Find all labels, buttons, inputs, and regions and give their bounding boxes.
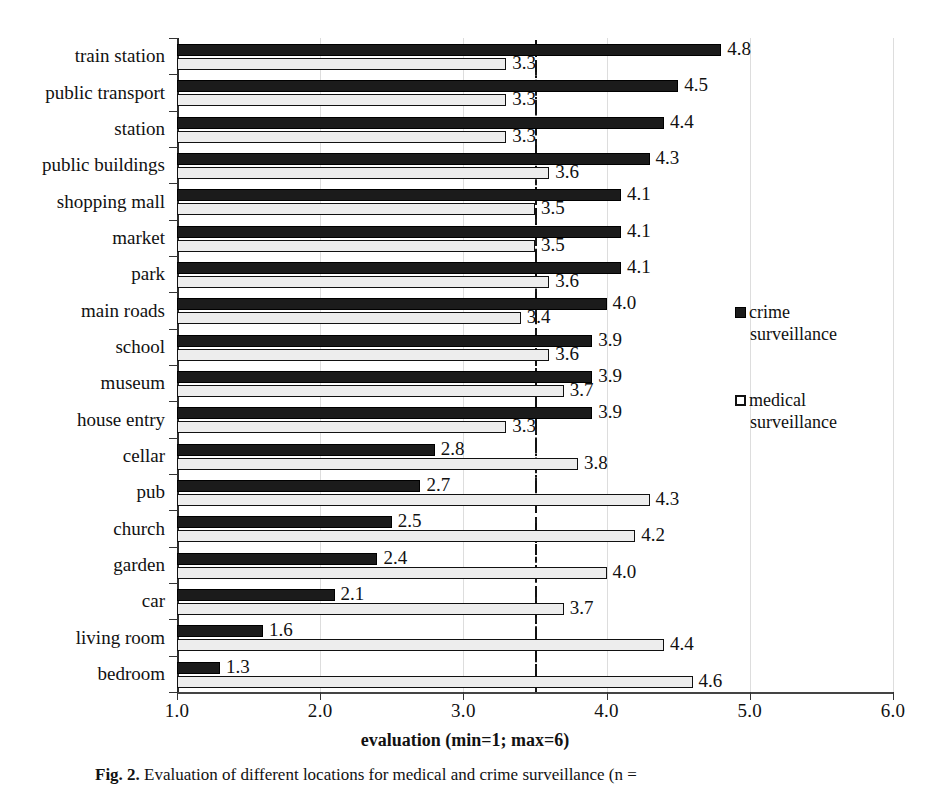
figure-bar-chart: 1.02.03.04.05.06.0 train station4.83.3pu… [0, 0, 930, 790]
figure-caption: Fig. 2. Evaluation of different location… [95, 764, 855, 788]
caption-figure-number: Fig. 2. [95, 765, 140, 784]
bar-value-crime: 4.4 [670, 112, 694, 131]
bar-medical-surveillance [177, 58, 506, 70]
bar-crime-surveillance [177, 444, 435, 456]
bar-value-medical: 3.3 [512, 53, 536, 72]
bar-value-crime: 1.6 [269, 620, 293, 639]
bar-medical-surveillance [177, 676, 693, 688]
y-axis-tick [169, 692, 178, 693]
category-label: museum [0, 373, 165, 392]
y-axis-tick [169, 74, 178, 75]
bar-crime-surveillance [177, 480, 420, 492]
bar-medical-surveillance [177, 385, 564, 397]
category-label: public transport [0, 83, 165, 102]
bar-value-medical: 4.4 [670, 634, 694, 653]
bar-value-crime: 3.9 [598, 330, 622, 349]
caption-text: Evaluation of different locations for me… [144, 765, 637, 784]
y-axis-tick [169, 547, 178, 548]
category-label: station [0, 119, 165, 138]
bar-value-crime: 3.9 [598, 366, 622, 385]
x-axis-title: evaluation (min=1; max=6) [0, 730, 930, 751]
bar-value-medical: 4.2 [641, 525, 665, 544]
filled-square-icon [735, 307, 746, 318]
legend-label-crime-line2: surveillance [750, 324, 915, 346]
category-label: pub [0, 482, 165, 501]
bar-medical-surveillance [177, 131, 506, 143]
legend-label-medical-line1: medical [749, 390, 806, 410]
category-label: public buildings [0, 155, 165, 174]
bar-value-crime: 1.3 [226, 657, 250, 676]
y-axis-tick [169, 329, 178, 330]
bar-crime-surveillance [177, 516, 392, 528]
bar-value-medical: 4.3 [656, 489, 680, 508]
category-label: garden [0, 555, 165, 574]
bar-value-medical: 3.5 [541, 198, 565, 217]
x-axis-tick-label: 5.0 [720, 700, 780, 722]
y-axis-tick [169, 256, 178, 257]
open-square-icon [735, 395, 746, 406]
bar-value-medical: 4.0 [613, 562, 637, 581]
bar-value-crime: 2.4 [383, 548, 407, 567]
bar-value-medical: 4.6 [699, 671, 723, 690]
category-label: bedroom [0, 664, 165, 683]
bar-value-medical: 3.8 [584, 453, 608, 472]
category-label: park [0, 264, 165, 283]
bar-value-crime: 4.5 [684, 75, 708, 94]
x-axis-line [177, 692, 893, 694]
bar-medical-surveillance [177, 94, 506, 106]
category-label: church [0, 519, 165, 538]
y-axis-tick [169, 656, 178, 657]
bar-value-medical: 3.6 [555, 162, 579, 181]
x-axis-tick-label: 3.0 [433, 700, 493, 722]
category-label: living room [0, 628, 165, 647]
x-axis-tick [750, 692, 751, 700]
y-axis-tick [169, 438, 178, 439]
category-label: house entry [0, 410, 165, 429]
y-axis-tick [169, 111, 178, 112]
bar-crime-surveillance [177, 589, 335, 601]
bar-medical-surveillance [177, 240, 535, 252]
y-axis-tick [169, 147, 178, 148]
bar-value-crime: 4.1 [627, 184, 651, 203]
bar-crime-surveillance [177, 335, 592, 347]
category-label: main roads [0, 301, 165, 320]
bar-medical-surveillance [177, 312, 521, 324]
bar-crime-surveillance [177, 262, 621, 274]
bar-crime-surveillance [177, 625, 263, 637]
category-label: car [0, 591, 165, 610]
bar-value-medical: 3.7 [570, 598, 594, 617]
legend-label-medical-line2: surveillance [750, 412, 915, 434]
category-label: train station [0, 46, 165, 65]
bar-value-crime: 2.1 [341, 584, 365, 603]
y-axis-tick [169, 220, 178, 221]
y-axis-tick [169, 474, 178, 475]
y-axis-tick [169, 619, 178, 620]
x-axis-tick-label: 4.0 [577, 700, 637, 722]
bar-value-crime: 4.3 [656, 148, 680, 167]
x-axis-tick-label: 2.0 [290, 700, 350, 722]
bar-value-crime: 2.7 [426, 475, 450, 494]
legend-label-crime-line1: crime [749, 302, 790, 322]
bar-value-crime: 4.0 [613, 293, 637, 312]
bar-crime-surveillance [177, 553, 377, 565]
category-label: cellar [0, 446, 165, 465]
bar-crime-surveillance [177, 371, 592, 383]
y-axis-tick [169, 401, 178, 402]
bar-medical-surveillance [177, 639, 664, 651]
category-label: shopping mall [0, 192, 165, 211]
bar-value-medical: 3.6 [555, 271, 579, 290]
y-axis-tick [169, 183, 178, 184]
category-label: market [0, 228, 165, 247]
bar-value-medical: 3.3 [512, 416, 536, 435]
x-axis-tick [320, 692, 321, 700]
bar-medical-surveillance [177, 349, 549, 361]
y-axis-tick [169, 583, 178, 584]
bar-value-medical: 3.6 [555, 344, 579, 363]
bar-medical-surveillance [177, 203, 535, 215]
bar-medical-surveillance [177, 276, 549, 288]
bar-value-medical: 3.7 [570, 380, 594, 399]
bar-medical-surveillance [177, 167, 549, 179]
bar-medical-surveillance [177, 421, 506, 433]
bar-crime-surveillance [177, 662, 220, 674]
bar-value-crime: 3.9 [598, 402, 622, 421]
